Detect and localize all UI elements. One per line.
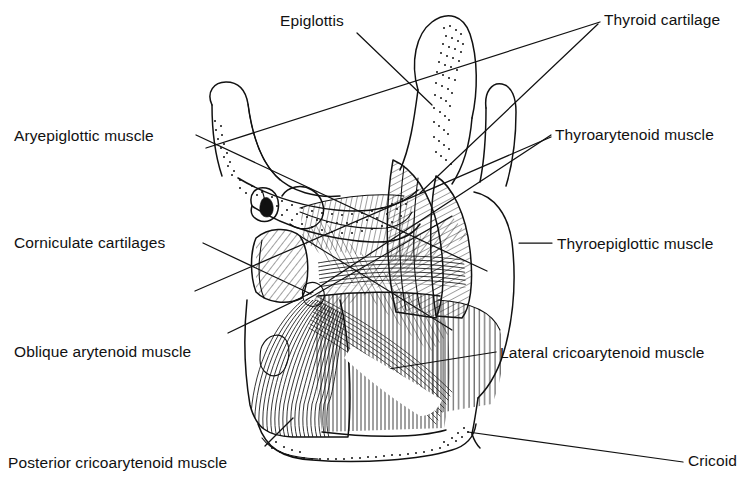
label-aryepiglottic-muscle: Aryepiglottic muscle [14, 127, 154, 144]
leader-thyroid-cartilage-lower [420, 24, 598, 193]
epiglottis-cartilage [400, 16, 476, 184]
hyoid-greater-horn [210, 82, 340, 196]
leader-cricoid [468, 432, 683, 462]
label-thyroid-cartilage: Thyroid cartilage [604, 11, 720, 28]
epiglottis-stipple [433, 25, 464, 165]
label-thyroepiglottic-muscle: Thyroepiglottic muscle [557, 235, 713, 252]
label-cricoid: Cricoid [688, 452, 737, 469]
thyroid-cartilage-superior-horn [480, 84, 516, 186]
label-oblique-arytenoid-muscle: Oblique arytenoid muscle [14, 343, 191, 360]
label-epiglottis: Epiglottis [280, 12, 344, 29]
anatomical-figure: Epiglottis Thyroid cartilage Aryepiglott… [0, 0, 746, 486]
thyroid-inferior-margin [472, 434, 480, 448]
leader-thyroid-cartilage-upper [206, 22, 600, 148]
label-corniculate-cartilages: Corniculate cartilages [14, 234, 165, 251]
label-lateral-cricoarytenoid-muscle: Lateral cricoarytenoid muscle [500, 344, 705, 361]
label-thyroarytenoid-muscle: Thyroarytenoid muscle [555, 126, 714, 143]
larynx-drawing: Epiglottis Thyroid cartilage Aryepiglott… [0, 0, 746, 486]
label-posterior-cricoarytenoid-muscle: Posterior cricoarytenoid muscle [8, 454, 227, 471]
leader-epiglottis [357, 33, 432, 105]
